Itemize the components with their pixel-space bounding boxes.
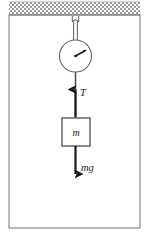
weight-label: mg [81, 162, 94, 173]
spring-scale-dial [60, 40, 92, 72]
ceiling-support [9, 2, 140, 15]
ceiling-hatch-fill [9, 2, 140, 15]
physics-diagram-svg: T m mg [0, 0, 149, 237]
mass-block-label: m [72, 127, 79, 138]
dial-hub [74, 55, 77, 58]
figure-root: T m mg [0, 0, 149, 237]
